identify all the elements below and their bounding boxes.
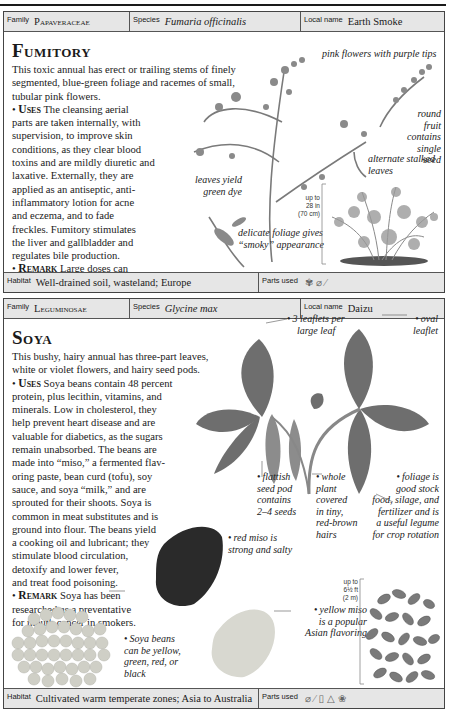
page-top-rule [0,4,446,6]
habitat-value: Well-drained soil, wasteland; Europe [36,277,191,288]
habitat-cell: Habitat Well-drained soil, wasteland; Eu… [4,273,259,292]
aerial-parts-icon: ✾ [305,277,316,288]
parts-used-cell: Parts used ✾⌀⁄ [259,273,444,292]
leaf-icon: ⌀ [316,277,325,288]
stem-icon: ⁄ [325,277,330,288]
soya-whole-plant-illustration [4,299,444,708]
habitat-label: Habitat [7,692,31,701]
leaf-icon: ⌀ [305,693,314,704]
parts-used-label: Parts used [262,276,298,285]
parts-used-cell: Parts used ⌀⁄▯△❀ [259,689,444,708]
info-bar-bottom: Habitat Cultivated warm temperate zones;… [4,688,444,708]
entry-fumitory: Family Papaveraceae Species Fumaria offi… [3,11,445,293]
bean-icon: ❀ [338,693,349,704]
habitat-label: Habitat [7,276,31,285]
entry-soya: Family Leguminosae Species Glycine max L… [3,298,445,709]
habitat-cell: Habitat Cultivated warm temperate zones;… [4,689,259,708]
parts-used-label: Parts used [262,692,298,701]
fumitory-whole-plant-illustration [4,12,444,292]
oil-icon: ▯ [319,693,328,704]
info-bar-bottom: Habitat Well-drained soil, wasteland; Eu… [4,272,444,292]
seed-icon: △ [327,693,338,704]
habitat-value: Cultivated warm temperate zones; Asia to… [36,693,252,704]
